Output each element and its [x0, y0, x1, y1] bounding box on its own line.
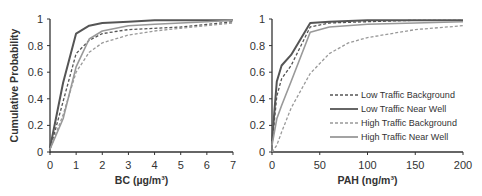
x-tick-label: 7	[230, 159, 236, 171]
y-tick-label: 0	[37, 146, 43, 158]
y-tick-label: 0.4	[28, 93, 43, 105]
x-tick-label: 200	[454, 159, 472, 171]
y-tick-label: 0	[259, 146, 265, 158]
y-tick-label: 0.8	[250, 40, 265, 52]
legend-item-low-traffic-near-well: Low Traffic Near Well	[330, 104, 446, 114]
legend-label: Low Traffic Near Well	[361, 104, 446, 114]
x-tick-label: 1	[73, 159, 79, 171]
x-tick-label: 0	[47, 159, 53, 171]
x-tick-label: 50	[314, 159, 326, 171]
legend-label: High Traffic Near Well	[361, 132, 448, 142]
chart-bc: 0123456700.20.40.60.81BC (µg/m³)Cumulati…	[8, 13, 236, 186]
y-tick-label: 0.6	[28, 66, 43, 78]
series-line-low-traffic-near-well	[50, 20, 233, 148]
legend-item-high-traffic-background: High Traffic Background	[330, 118, 457, 128]
legend: Low Traffic Background Low Traffic Near …	[330, 90, 457, 142]
y-tick-label: 0.6	[250, 66, 265, 78]
series-line-low-traffic-background	[50, 22, 233, 150]
y-tick-label: 0.4	[250, 93, 265, 105]
y-tick-label: 0.2	[28, 119, 43, 131]
series-line-high-traffic-near-well	[50, 20, 233, 149]
x-tick-label: 3	[125, 159, 131, 171]
y-tick-label: 0.2	[250, 119, 265, 131]
y-tick-label: 1	[37, 13, 43, 25]
x-tick-label: 2	[99, 159, 105, 171]
y-axis-title: Cumulative Probability	[8, 28, 20, 142]
legend-item-low-traffic-background: Low Traffic Background	[330, 90, 455, 100]
x-axis-title: PAH (ng/m³)	[338, 174, 398, 186]
x-tick-label: 4	[152, 159, 158, 171]
y-tick-label: 0.8	[28, 40, 43, 52]
x-tick-label: 6	[204, 159, 210, 171]
x-axis-title: BC (µg/m³)	[115, 174, 168, 186]
legend-label: Low Traffic Background	[361, 90, 455, 100]
figure: 0123456700.20.40.60.81BC (µg/m³)Cumulati…	[0, 0, 482, 196]
x-tick-label: 5	[178, 159, 184, 171]
legend-label: High Traffic Background	[361, 118, 457, 128]
x-tick-label: 100	[358, 159, 376, 171]
x-tick-label: 150	[406, 159, 424, 171]
series-line-high-traffic-background	[50, 23, 233, 149]
x-tick-label: 0	[269, 159, 275, 171]
legend-item-high-traffic-near-well: High Traffic Near Well	[330, 132, 448, 142]
y-tick-label: 1	[259, 13, 265, 25]
